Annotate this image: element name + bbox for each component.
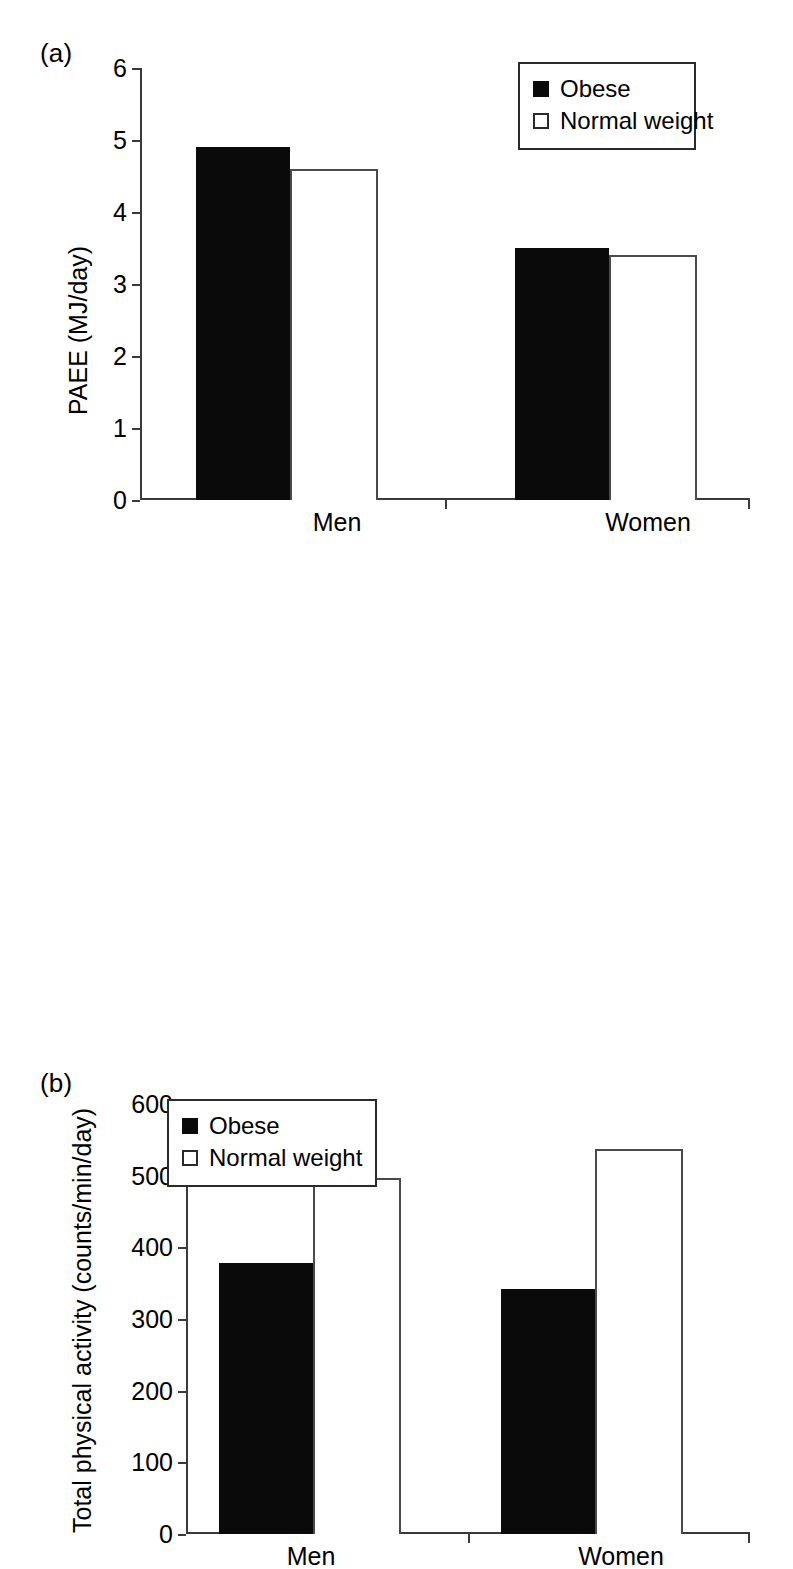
panel-a-label: (a) [40,38,72,69]
panel-a-legend-label-obese: Obese [560,77,631,101]
panel-b-ytick-200: 200 [131,1378,173,1403]
panel-b-legend-item-normal: Normal weight [182,1142,359,1174]
bar-panel-a-men-obese [196,147,290,500]
bar-panel-b-men-obese [219,1263,313,1534]
open-square-icon [182,1150,198,1166]
bar-panel-a-men-normal [290,169,378,500]
panel-a-legend-item-normal: Normal weight [533,105,678,137]
panel-b-category-men: Men [287,1542,336,1569]
filled-square-icon [182,1118,198,1134]
panel-b-ytick-0: 0 [159,1522,173,1547]
panel-b-legend-item-obese: Obese [182,1110,359,1142]
panel-b-category-women: Women [578,1542,664,1569]
panel-a-y-axis-label: PAEE (MJ/day) [66,246,91,415]
panel-a-legend-item-obese: Obese [533,73,678,105]
bar-panel-b-women-obese [501,1289,595,1534]
panel-b-y-axis-label: Total physical activity (counts/min/day) [70,1108,95,1533]
bar-panel-b-men-normal [313,1178,401,1534]
panel-b-xtick-mid [468,1534,470,1543]
panel-b: (b) Total physical activity (counts/min/… [0,528,793,1073]
panel-b-legend-label-obese: Obese [209,1114,280,1138]
panel-b-label: (b) [40,1068,72,1099]
panel-a-ytick-3: 3 [113,272,127,297]
panel-a-y-axis [140,68,142,500]
panel-a: (a) PAEE (MJ/day) 0 1 2 3 4 5 6 Men Wome… [0,0,793,545]
panel-a-xtick-mid [445,500,447,509]
panel-a-ytick-0: 0 [113,488,127,513]
panel-a-legend: Obese Normal weight [518,62,696,150]
bar-panel-a-women-normal [609,255,697,500]
filled-square-icon [533,81,549,97]
panel-a-ytick-4: 4 [113,200,127,225]
panel-b-legend-label-normal: Normal weight [209,1146,362,1170]
panel-a-ytick-5: 5 [113,128,127,153]
panel-b-ytick-300: 300 [131,1307,173,1332]
panel-b-legend: Obese Normal weight [167,1099,377,1187]
panel-a-ytick-1: 1 [113,416,127,441]
panel-a-ytick-2: 2 [113,344,127,369]
panel-b-ytick-100: 100 [131,1450,173,1475]
panel-a-ytick-6: 6 [113,56,127,81]
panel-b-ytick-400: 400 [131,1235,173,1260]
open-square-icon [533,113,549,129]
panel-b-xtick-end [748,1534,750,1543]
panel-a-xtick-end [748,500,750,509]
bar-panel-a-women-obese [515,248,609,500]
bar-panel-b-women-normal [595,1149,683,1534]
panel-a-legend-label-normal: Normal weight [560,109,713,133]
